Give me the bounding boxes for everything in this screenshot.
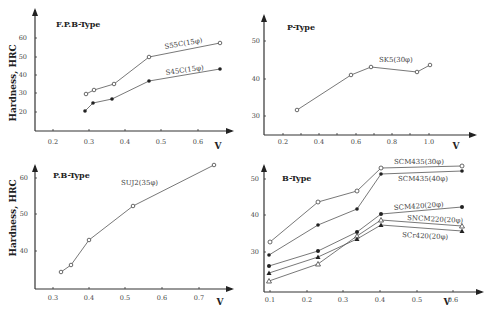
x-tick-label: 0.6 [351, 138, 361, 146]
y-axis-label: Hardness, HRC [8, 44, 19, 121]
x-tick-label: 0.7 [194, 294, 204, 302]
y-tick-label: 40 [19, 71, 27, 79]
x-axis-label: V [214, 141, 223, 151]
y-tick-label: 60 [20, 174, 28, 182]
x-tick-label: 0.8 [387, 138, 397, 146]
x-tick-label: 0.1 [265, 296, 275, 304]
x-tick-label: 0.3 [338, 296, 348, 304]
x-tick-label: 0.4 [84, 294, 94, 302]
x-axis-label: V [443, 297, 452, 307]
y-tick-label: 40 [20, 247, 28, 255]
y-tick-label: 30 [19, 89, 27, 97]
x-tick-label: 0.4 [120, 138, 130, 146]
series-label-scr420: SCr420(20φ) [402, 231, 449, 241]
series-sk5 [297, 65, 430, 110]
series-label-sncm220: SNCM220(20φ) [407, 214, 464, 225]
y-axis-label: Hardness, HRC [8, 179, 19, 256]
x-tick-label: 0.4 [314, 138, 324, 146]
markers-s45c [83, 67, 222, 113]
x-tick-label: 0.3 [84, 138, 94, 146]
y-tick-label: 50 [251, 175, 259, 183]
series-label-scm435-40: SCM435(40φ) [398, 175, 448, 183]
y-tick-label: 30 [251, 248, 259, 256]
panel-title: P.B-Type [53, 170, 90, 180]
x-tick-label: 0.2 [302, 296, 312, 304]
y-tick-label: 60 [19, 34, 27, 42]
x-tick-label: 0.5 [120, 294, 130, 302]
x-axis-label: V [216, 297, 225, 307]
panel-title: B-Type [282, 173, 311, 183]
x-tick-label: 0.4 [375, 296, 385, 304]
x-tick-label: 0.2 [48, 138, 58, 146]
x-axis-label: V [452, 141, 461, 151]
panel-title: F.P.B-Type [56, 19, 100, 29]
panel-title: P-Type [287, 22, 315, 32]
x-tick-label: 0.2 [278, 138, 288, 146]
y-tick-label: 30 [252, 112, 260, 120]
series-s45c [85, 69, 220, 111]
series-label-sk5: SK5(30φ) [379, 56, 413, 64]
markers-sncm220 [267, 218, 465, 284]
y-tick-label: 50 [19, 53, 27, 61]
series-label-scm420: SCM420(20φ) [394, 201, 445, 212]
series-label-s55c: S55C(15φ) [164, 36, 203, 51]
series-label-scm435-30: SCM435(30φ) [394, 158, 444, 166]
x-tick-label: 0.5 [156, 138, 166, 146]
panel-pb: 0.3 0.4 0.5 0.6 0.7 40 50 60 P.B-Type Ha… [8, 163, 232, 307]
series-label-suj2: SUJ2(35φ) [121, 179, 158, 187]
markers-sk5 [295, 63, 432, 112]
x-tick-label: 0.5 [412, 296, 422, 304]
y-tick-label: 20 [19, 108, 27, 116]
x-tick-label: 0.3 [48, 294, 58, 302]
x-tick-label: 0.6 [157, 294, 167, 302]
panel-p: 0.2 0.4 0.6 0.8 1.0 30 40 50 P-Type V SK… [252, 16, 475, 151]
panel-fpb: 0.2 0.3 0.4 0.5 0.6 20 30 40 50 60 F.P.B… [8, 10, 232, 151]
x-tick-label: 0.6 [193, 138, 203, 146]
y-tick-label: 40 [252, 75, 260, 83]
y-ticks: 20 30 40 50 60 [19, 34, 37, 116]
series-scm435-40 [269, 171, 462, 255]
panel-b: 0.1 0.2 0.3 0.4 0.5 0.6 30 40 50 B-Type … [251, 158, 482, 307]
y-tick-label: 50 [252, 37, 260, 45]
chart-figure: 0.2 0.3 0.4 0.5 0.6 20 30 40 50 60 F.P.B… [0, 0, 490, 313]
x-tick-label: 1.0 [424, 138, 434, 146]
y-tick-label: 50 [20, 210, 28, 218]
y-tick-label: 40 [251, 211, 259, 219]
